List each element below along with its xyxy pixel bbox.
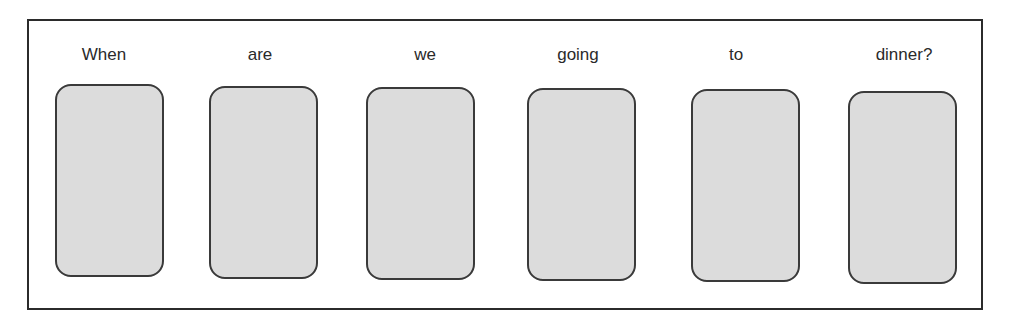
word-slot-we xyxy=(366,87,475,280)
word-label-when: When xyxy=(34,44,174,66)
word-label-we: we xyxy=(355,44,495,66)
word-label-going: going xyxy=(508,44,648,66)
word-label-to: to xyxy=(666,44,806,66)
word-label-dinner: dinner? xyxy=(834,44,974,66)
word-slot-dinner xyxy=(848,91,957,284)
word-slot-are xyxy=(209,86,318,279)
word-slot-to xyxy=(691,89,800,282)
word-slot-when xyxy=(55,84,164,277)
word-slot-going xyxy=(527,88,636,281)
word-label-are: are xyxy=(190,44,330,66)
